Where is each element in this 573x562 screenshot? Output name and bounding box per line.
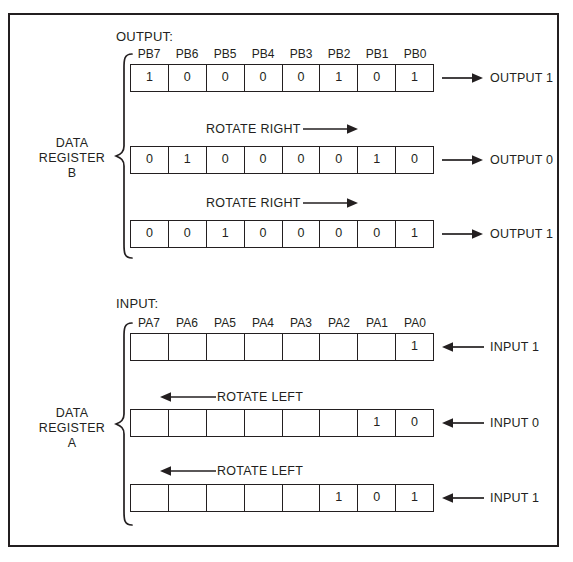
rotate-annotation-label: ROTATE LEFT [217, 389, 303, 405]
bit-cell [131, 410, 169, 436]
bit-cell: 0 [358, 485, 396, 511]
bit-cell: 1 [358, 410, 396, 436]
group-label-line: REGISTER [28, 151, 116, 166]
group-label-line: B [28, 166, 116, 181]
bit-cell [283, 485, 321, 511]
bit-label-pb6: PB6 [168, 46, 206, 62]
arrow-right-icon [442, 154, 484, 166]
output-annotation-label: OUTPUT 1 [490, 69, 553, 87]
arrow-right-icon [442, 72, 484, 84]
bit-label-pb5: PB5 [206, 46, 244, 62]
bit-label-pa0: PA0 [396, 315, 434, 331]
bit-cell: 1 [396, 65, 433, 91]
rotate-annotation: ROTATE LEFT [160, 389, 303, 405]
bit-cell: 0 [396, 410, 433, 436]
bit-label-pb3: PB3 [282, 46, 320, 62]
bit-label-pb2: PB2 [320, 46, 358, 62]
register-row: 0 0 1 0 0 0 0 1 [130, 220, 434, 248]
bit-cell: 1 [320, 485, 358, 511]
register-row: 1 0 1 [130, 484, 434, 512]
rotate-annotation: ROTATE RIGHT [206, 195, 359, 211]
bit-cell: 1 [358, 147, 396, 173]
bit-cell: 1 [396, 334, 433, 360]
bit-cell [131, 334, 169, 360]
output-section-caption: OUTPUT: [116, 29, 173, 44]
bit-cell [245, 485, 283, 511]
bit-label-pa7: PA7 [130, 315, 168, 331]
bit-cell [169, 410, 207, 436]
output-bit-label-row: PB7 PB6 PB5 PB4 PB3 PB2 PB1 PB0 [130, 46, 434, 62]
bit-cell: 1 [396, 485, 433, 511]
bit-cell: 0 [283, 221, 321, 247]
bit-cell [207, 410, 245, 436]
register-row: 1 0 [130, 409, 434, 437]
group-label-line: DATA [28, 136, 116, 151]
bit-cell [283, 334, 321, 360]
bit-label-pb7: PB7 [130, 46, 168, 62]
bit-label-pa2: PA2 [320, 315, 358, 331]
bit-cell: 0 [169, 65, 207, 91]
arrow-left-icon [160, 391, 216, 403]
rotate-annotation: ROTATE RIGHT [206, 121, 359, 137]
bit-cell [320, 410, 358, 436]
bit-cell: 0 [245, 221, 283, 247]
bit-cell: 0 [396, 147, 433, 173]
output-annotation: OUTPUT 1 [442, 225, 553, 243]
output-annotation: OUTPUT 0 [442, 151, 553, 169]
bit-cell: 0 [320, 147, 358, 173]
bit-label-pb4: PB4 [244, 46, 282, 62]
input-annotation-label: INPUT 0 [490, 414, 539, 432]
group-label-data-register-b: DATA REGISTER B [28, 136, 116, 181]
bit-label-pb1: PB1 [358, 46, 396, 62]
bit-cell [169, 485, 207, 511]
bit-cell [358, 334, 396, 360]
bit-cell: 1 [320, 65, 358, 91]
input-bit-label-row: PA7 PA6 PA5 PA4 PA3 PA2 PA1 PA0 [130, 315, 434, 331]
arrow-right-icon [303, 197, 359, 209]
bit-cell [207, 485, 245, 511]
output-annotation-label: OUTPUT 0 [490, 151, 553, 169]
bit-cell: 0 [245, 147, 283, 173]
bit-label-pb0: PB0 [396, 46, 434, 62]
input-annotation: INPUT 1 [442, 489, 539, 507]
bit-cell: 1 [207, 221, 245, 247]
bit-cell: 0 [207, 65, 245, 91]
bit-cell: 0 [283, 147, 321, 173]
bit-cell: 0 [131, 147, 169, 173]
bit-cell: 0 [207, 147, 245, 173]
rotate-annotation-label: ROTATE RIGHT [206, 121, 301, 137]
bit-cell: 0 [358, 65, 396, 91]
group-label-line: REGISTER [28, 421, 116, 436]
arrow-left-icon [442, 341, 484, 353]
arrow-left-icon [442, 417, 484, 429]
group-label-line: A [28, 436, 116, 451]
arrow-right-icon [303, 123, 359, 135]
bit-cell [245, 410, 283, 436]
bit-cell [207, 334, 245, 360]
bit-cell [169, 334, 207, 360]
figure-frame: OUTPUT: DATA REGISTER B PB7 PB6 PB5 PB4 … [8, 13, 559, 547]
rotate-annotation: ROTATE LEFT [160, 463, 303, 479]
input-annotation-label: INPUT 1 [490, 338, 539, 356]
bit-cell [320, 334, 358, 360]
rotate-annotation-label: ROTATE RIGHT [206, 195, 301, 211]
bit-cell: 1 [169, 147, 207, 173]
group-label-line: DATA [28, 406, 116, 421]
input-annotation: INPUT 1 [442, 338, 539, 356]
group-label-data-register-a: DATA REGISTER A [28, 406, 116, 451]
bit-label-pa5: PA5 [206, 315, 244, 331]
bit-cell: 0 [131, 221, 169, 247]
bit-cell: 0 [283, 65, 321, 91]
bit-cell: 1 [131, 65, 169, 91]
bit-label-pa6: PA6 [168, 315, 206, 331]
arrow-left-icon [442, 492, 484, 504]
arrow-right-icon [442, 228, 484, 240]
input-section-caption: INPUT: [116, 296, 158, 311]
arrow-left-icon [160, 465, 216, 477]
bit-cell: 0 [358, 221, 396, 247]
bit-cell [245, 334, 283, 360]
bit-label-pa3: PA3 [282, 315, 320, 331]
register-row: 1 0 0 0 0 1 0 1 [130, 64, 434, 92]
bit-cell [283, 410, 321, 436]
rotate-annotation-label: ROTATE LEFT [217, 463, 303, 479]
